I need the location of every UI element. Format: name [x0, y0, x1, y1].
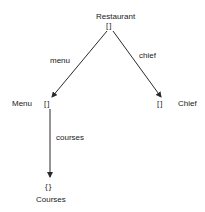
node-restaurant-marker: []	[106, 21, 112, 30]
edge-label-chief: chief	[139, 51, 156, 60]
edge-label-menu: menu	[50, 56, 70, 65]
node-chief-marker: []	[157, 99, 163, 108]
node-chief-label: Chief	[178, 99, 197, 108]
node-courses-marker: {}	[45, 182, 52, 191]
node-restaurant-label: Restaurant	[96, 12, 135, 21]
node-courses-label: Courses	[36, 195, 66, 204]
edge-label-courses: courses	[56, 133, 84, 142]
node-menu-label: Menu	[12, 99, 32, 108]
edge-restaurant-chief	[113, 31, 161, 97]
node-menu-marker: []	[44, 99, 50, 108]
